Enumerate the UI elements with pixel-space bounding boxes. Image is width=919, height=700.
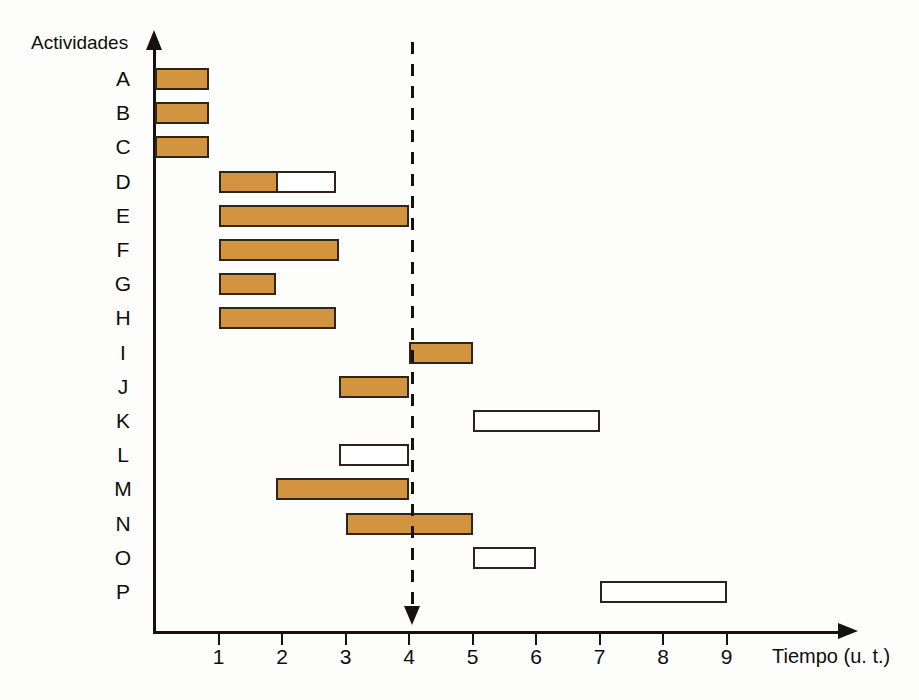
x-axis-tick-label: 5: [453, 645, 493, 669]
x-axis-line: [153, 631, 841, 634]
x-axis-tick: [662, 634, 664, 645]
activity-label-e: E: [106, 204, 140, 228]
x-axis-tick: [281, 634, 283, 645]
activity-label-c: C: [106, 135, 140, 159]
x-axis-tick-label: 8: [643, 645, 683, 669]
x-axis-tick-label: 9: [707, 645, 747, 669]
activity-label-p: P: [106, 580, 140, 604]
activity-label-n: N: [106, 512, 140, 536]
gantt-bar-n[interactable]: [346, 513, 473, 535]
activity-label-m: M: [106, 477, 140, 501]
gantt-bar-g[interactable]: [219, 273, 276, 295]
deadline-arrow-icon: [404, 606, 420, 625]
x-axis-tick: [726, 634, 728, 645]
activity-label-f: F: [106, 238, 140, 262]
gantt-bar-o[interactable]: [473, 547, 537, 569]
x-axis-tick: [599, 634, 601, 645]
activity-label-o: O: [106, 546, 140, 570]
gantt-bar-k[interactable]: [473, 410, 600, 432]
activity-label-b: B: [106, 101, 140, 125]
activity-label-d: D: [106, 170, 140, 194]
x-axis-arrow-icon: [838, 623, 858, 639]
gantt-bar-i[interactable]: [409, 342, 473, 364]
y-axis-title: Actividades: [31, 32, 128, 54]
gantt-bar-f[interactable]: [219, 239, 340, 261]
x-axis-tick-label: 2: [262, 645, 302, 669]
gantt-bar-c[interactable]: [155, 136, 209, 158]
gantt-bar-d[interactable]: [219, 171, 336, 193]
activity-label-a: A: [106, 67, 140, 91]
gantt-bar-progress-d: [221, 173, 278, 191]
gantt-bar-h[interactable]: [219, 307, 336, 329]
x-axis-tick: [535, 634, 537, 645]
activity-label-h: H: [106, 306, 140, 330]
x-axis-tick-label: 1: [199, 645, 239, 669]
x-axis-tick: [218, 634, 220, 645]
activity-label-i: I: [106, 341, 140, 365]
x-axis-tick-label: 7: [580, 645, 620, 669]
y-axis-arrow-icon: [146, 30, 162, 50]
x-axis-tick-label: 6: [516, 645, 556, 669]
x-axis-tick: [345, 634, 347, 645]
gantt-bar-a[interactable]: [155, 68, 209, 90]
x-axis-title: Tiempo (u. t.): [772, 645, 890, 668]
deadline-dashed-line: [411, 42, 414, 608]
activity-label-k: K: [106, 409, 140, 433]
gantt-bar-j[interactable]: [339, 376, 409, 398]
x-axis-tick: [408, 634, 410, 645]
activity-label-l: L: [106, 443, 140, 467]
gantt-bar-b[interactable]: [155, 102, 209, 124]
gantt-bar-m[interactable]: [276, 478, 409, 500]
gantt-bar-p[interactable]: [600, 581, 727, 603]
gantt-chart: Actividades ABCDEFGHIJKLMNOP 123456789 T…: [0, 0, 919, 700]
activity-label-g: G: [106, 272, 140, 296]
x-axis-tick: [472, 634, 474, 645]
x-axis-tick-label: 4: [389, 645, 429, 669]
activity-label-j: J: [106, 375, 140, 399]
gantt-bar-l[interactable]: [339, 444, 409, 466]
gantt-bar-e[interactable]: [219, 205, 410, 227]
x-axis-tick-label: 3: [326, 645, 366, 669]
